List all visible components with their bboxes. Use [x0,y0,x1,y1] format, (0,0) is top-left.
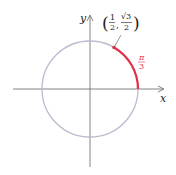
y-axis-label: y [79,12,87,25]
arc-pi-over-3 [114,47,138,89]
svg-text:π: π [138,53,145,62]
x-axis-label: x [160,92,167,105]
arc-length-label: π 3 [138,53,145,71]
svg-text:2: 2 [124,23,129,32]
svg-text:2: 2 [110,23,115,32]
svg-text:1: 1 [110,13,115,22]
svg-text:): ) [133,13,140,33]
svg-text:(: ( [102,13,109,33]
svg-text:,: , [116,20,119,30]
svg-text:√3: √3 [121,12,131,21]
unit-circle-diagram: y x ( 1 2 , √3 2 ) π 3 [0,0,176,175]
svg-text:3: 3 [139,62,144,71]
leader-line [115,35,122,47]
point-on-circle [112,46,116,50]
point-coordinate-label: ( 1 2 , √3 2 ) [102,12,140,33]
